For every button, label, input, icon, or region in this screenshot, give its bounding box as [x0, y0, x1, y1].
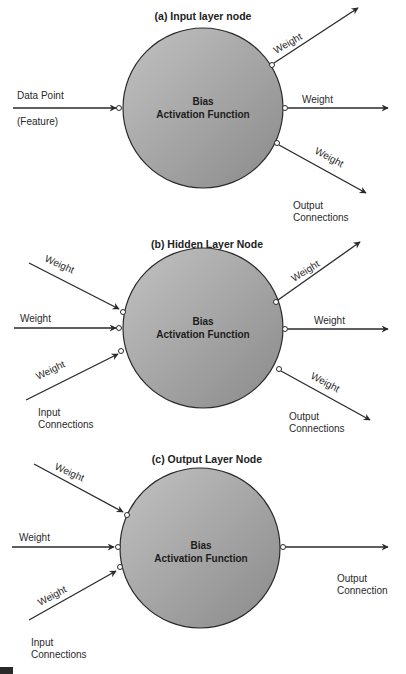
input-connections-label-1: Input [38, 407, 60, 418]
input-port-1 [121, 310, 126, 315]
output-port-1 [270, 63, 275, 68]
output-weight-label-1: Weight [289, 258, 321, 284]
input-connections-label-2: Connections [31, 649, 87, 660]
input-connections-label-1: Input [31, 637, 53, 648]
input-port-2 [116, 545, 121, 550]
panel-hidden-layer-node: (b) Hidden Layer Node Bias Activation Fu… [14, 238, 388, 434]
panel-a-title: (a) Input layer node [155, 10, 252, 22]
output-arrow-1 [274, 8, 358, 63]
input-port-3 [118, 565, 123, 570]
output-connections-label-2: Connections [289, 423, 345, 434]
input-arrow-1 [29, 263, 119, 309]
input-weight-label-2: Weight [20, 313, 51, 324]
output-port-2 [283, 327, 288, 332]
input-port-3 [119, 349, 124, 354]
output-port-3 [277, 367, 282, 372]
output-port [281, 545, 286, 550]
output-weight-label-3: Weight [313, 145, 346, 169]
node-activation-label: Activation Function [156, 109, 249, 120]
output-arrow-1 [278, 242, 360, 300]
input-port-2 [117, 326, 122, 331]
output-port-3 [275, 141, 280, 146]
input-port-1 [125, 513, 130, 518]
output-connections-label-2: Connections [293, 212, 349, 223]
panel-input-layer-node: (a) Input layer node Bias Activation Fun… [13, 8, 388, 223]
input-weight-label-2: Weight [19, 532, 50, 543]
corner-marker [0, 667, 13, 674]
feature-label: (Feature) [17, 116, 58, 127]
panel-output-layer-node: (c) Output Layer Node Bias Activation Fu… [12, 453, 388, 660]
panel-c-title: (c) Output Layer Node [152, 453, 262, 465]
data-point-label: Data Point [17, 90, 64, 101]
node-activation-label: Activation Function [156, 329, 249, 340]
output-connection-label-1: Output [337, 573, 367, 584]
input-node-circle [123, 28, 283, 188]
input-weight-label-3: Weight [34, 358, 67, 382]
input-weight-label-3: Weight [36, 583, 69, 607]
output-connections-label-1: Output [293, 200, 323, 211]
hidden-node-circle [123, 248, 283, 408]
output-port-2 [283, 106, 288, 111]
output-weight-label-2: Weight [314, 315, 345, 326]
node-activation-label: Activation Function [154, 553, 247, 564]
input-connections-label-2: Connections [38, 419, 94, 430]
node-bias-label: Bias [190, 540, 212, 551]
output-connection-label-2: Connection [337, 585, 388, 596]
input-weight-label-1: Weight [53, 461, 86, 484]
node-bias-label: Bias [192, 96, 214, 107]
node-bias-label: Bias [192, 316, 214, 327]
output-weight-label-1: Weight [272, 31, 304, 56]
neural-node-diagram: (a) Input layer node Bias Activation Fun… [0, 0, 406, 674]
output-port-1 [274, 300, 279, 305]
output-connections-label-1: Output [289, 411, 319, 422]
output-weight-label-3: Weight [309, 370, 342, 394]
output-weight-label-2: Weight [302, 94, 333, 105]
input-port [117, 106, 122, 111]
